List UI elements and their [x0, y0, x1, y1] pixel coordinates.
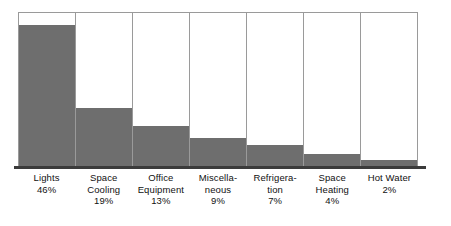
bar-fill [19, 25, 75, 166]
bar-value-label: 2% [361, 184, 418, 196]
bar-category-label: Miscella- [189, 172, 246, 184]
bar-value-label: 4% [304, 195, 361, 207]
bar-label: Lights46% [18, 172, 75, 207]
bar-value-label: 7% [247, 195, 304, 207]
bar-value-label: 46% [18, 184, 75, 196]
bar-category-label: Cooling [75, 184, 132, 196]
bar-column [19, 13, 76, 166]
bar-label: Miscella-neous9% [189, 172, 246, 207]
bar-chart-figure: Lights46%SpaceCooling19%OfficeEquipment1… [0, 0, 451, 226]
bar-category-label: Refrigera- [247, 172, 304, 184]
bar-column [190, 13, 247, 166]
bar-label: Hot Water2% [361, 172, 418, 207]
bar-label: SpaceHeating4% [304, 172, 361, 207]
bar-category-label: Heating [304, 184, 361, 196]
bar-fill [190, 138, 246, 166]
bar-value-label: 9% [189, 195, 246, 207]
bar-column [247, 13, 304, 166]
bar-column [304, 13, 361, 166]
bar-category-label: Hot Water [361, 172, 418, 184]
bar-category-label: Equipment [132, 184, 189, 196]
plot-area [18, 12, 418, 166]
bar-category-label: Lights [18, 172, 75, 184]
bar-fill [133, 126, 189, 166]
x-axis-baseline [14, 166, 426, 169]
bar-category-label: Space [75, 172, 132, 184]
bar-column [76, 13, 133, 166]
bar-fill [304, 154, 360, 166]
bar-column [361, 13, 417, 166]
bar-label: OfficeEquipment13% [132, 172, 189, 207]
bar-category-label: tion [247, 184, 304, 196]
bar-label: SpaceCooling19% [75, 172, 132, 207]
bar-label: Refrigera-tion7% [247, 172, 304, 207]
bar-category-label: Space [304, 172, 361, 184]
bar-value-label: 19% [75, 195, 132, 207]
bar-category-label: Office [132, 172, 189, 184]
bar-fill [247, 145, 303, 166]
bar-category-label: neous [189, 184, 246, 196]
bar-fill [76, 108, 132, 166]
x-axis-label-row: Lights46%SpaceCooling19%OfficeEquipment1… [18, 172, 418, 207]
bar-value-label: 13% [132, 195, 189, 207]
bar-column [133, 13, 190, 166]
